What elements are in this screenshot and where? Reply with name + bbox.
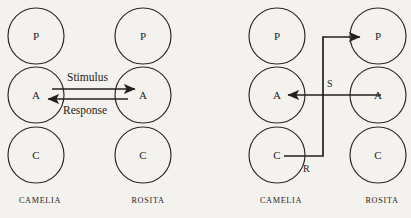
panel-complementary-transaction: P A C CAMELIA P A C ROSITA Stimulus — [8, 8, 171, 205]
response-label: Response — [63, 104, 107, 117]
ego-state-label-parent: P — [375, 30, 381, 42]
transactional-analysis-figure: P A C CAMELIA P A C ROSITA Stimulus — [0, 0, 411, 218]
person-name-rosita-left: ROSITA — [131, 196, 164, 205]
ego-state-label-parent: P — [140, 30, 146, 42]
ego-state-label-child: C — [273, 149, 280, 161]
ego-state-label-child: C — [374, 149, 381, 161]
person-name-rosita-right: ROSITA — [365, 196, 398, 205]
person-column-rosita-left: P A C ROSITA — [115, 8, 171, 205]
person-column-camelia-right: P A C CAMELIA — [249, 8, 305, 205]
ego-state-label-adult: A — [273, 89, 281, 101]
ego-state-label-child: C — [139, 149, 146, 161]
stimulus-s-label: S — [327, 78, 333, 89]
person-name-camelia-left: CAMELIA — [19, 196, 61, 205]
ego-state-label-child: C — [32, 149, 39, 161]
response-r-label: R — [303, 163, 310, 174]
ego-state-label-parent: P — [274, 30, 280, 42]
panel-crossed-transaction: P A C CAMELIA P A C ROSITA S — [249, 8, 406, 205]
ego-state-label-adult: A — [32, 89, 40, 101]
ego-state-label-adult: A — [139, 89, 147, 101]
person-column-camelia-left: P A C CAMELIA — [8, 8, 64, 205]
diagram-canvas: P A C CAMELIA P A C ROSITA Stimulus — [0, 0, 411, 218]
person-name-camelia-right: CAMELIA — [260, 196, 302, 205]
stimulus-label: Stimulus — [67, 71, 108, 83]
ego-state-label-parent: P — [33, 30, 39, 42]
